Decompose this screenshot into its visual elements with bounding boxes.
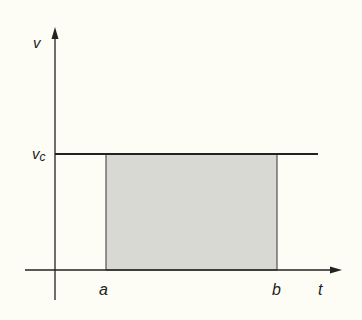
vc-label: vc xyxy=(32,145,46,164)
b-label: b xyxy=(272,281,281,298)
x-axis-label: t xyxy=(318,281,323,298)
y-axis-arrow-icon xyxy=(52,27,59,39)
x-axis-arrow-icon xyxy=(330,267,342,274)
velocity-time-diagram: v vc a b t xyxy=(0,0,362,320)
a-label: a xyxy=(99,281,108,298)
y-axis-label: v xyxy=(33,34,42,51)
shaded-area xyxy=(106,154,277,270)
